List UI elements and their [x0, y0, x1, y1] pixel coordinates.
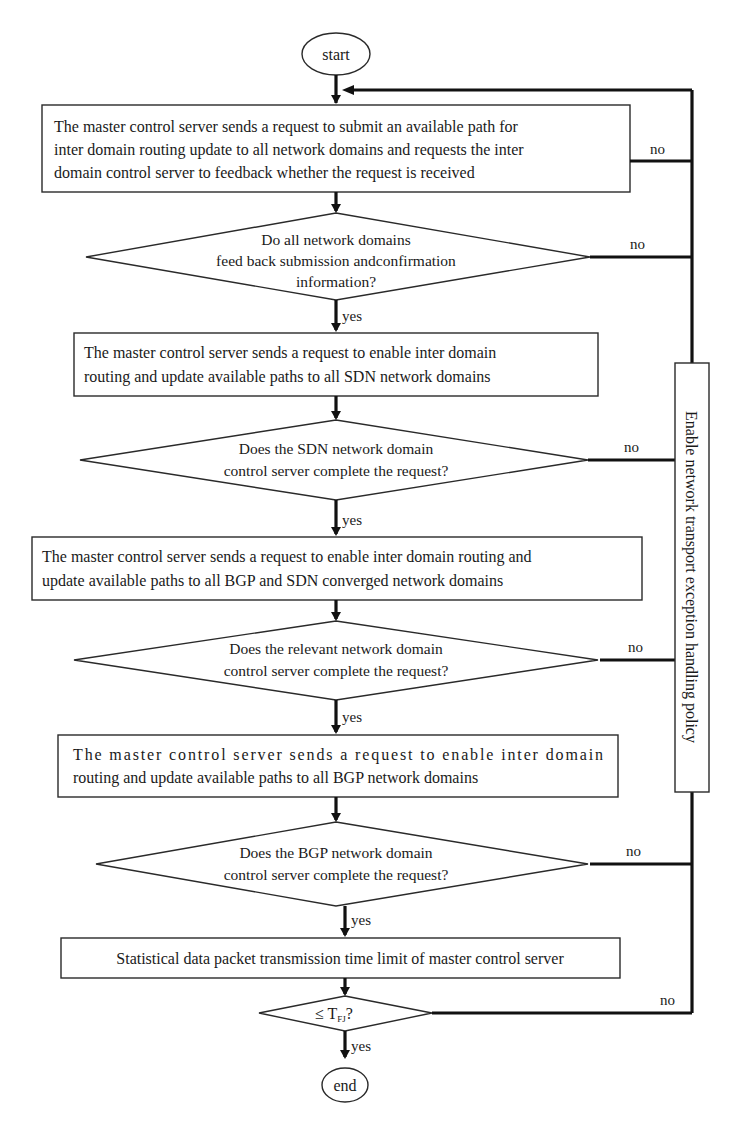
decision-5-time-limit: ≤ TFJ? — [259, 996, 432, 1031]
decision-1: Do all network domains feed back submiss… — [86, 213, 590, 300]
step-4-line-2: routing and update available paths to al… — [73, 769, 478, 787]
process-step-2: The master control server sends a reques… — [74, 333, 598, 396]
decision-4-no-label: no — [626, 843, 641, 859]
decision-3-no-label: no — [628, 639, 643, 655]
arrow-down-icon — [331, 323, 341, 332]
end-node: end — [322, 1068, 368, 1102]
process-step-3: The master control server sends a reques… — [32, 537, 642, 600]
decision-1-line-1: Do all network domains — [261, 231, 410, 248]
decision-2-yes-label: yes — [342, 512, 362, 528]
arrow-down-icon — [331, 725, 341, 734]
step-1-line-1: The master control server sends a reques… — [54, 118, 519, 136]
arrow-down-icon — [331, 813, 341, 822]
decision-4-yes-label: yes — [351, 912, 371, 928]
arrow-left-icon — [342, 85, 354, 95]
end-label: end — [333, 1077, 356, 1094]
arrow-down-icon — [331, 204, 341, 213]
process-step-1: The master control server sends a reques… — [42, 105, 630, 192]
decision-1-line-3: information? — [296, 273, 376, 290]
step-2-line-2: routing and update available paths to al… — [84, 368, 491, 386]
decision-5-no-label: no — [660, 992, 675, 1008]
arrow-down-icon — [340, 1050, 350, 1059]
decision-2-no-label: no — [624, 439, 639, 455]
decision-3-line-2: control server complete the request? — [224, 662, 449, 679]
arrow-down-icon — [331, 411, 341, 420]
arrow-down-icon — [340, 928, 350, 937]
decision-4-line-2: control server complete the request? — [224, 866, 449, 883]
arrow-down-icon — [331, 527, 341, 536]
step-3-line-1: The master control server sends a reques… — [42, 548, 532, 566]
start-node: start — [302, 33, 370, 75]
decision-3-yes-label: yes — [342, 709, 362, 725]
decision-4-line-1: Does the BGP network domain — [239, 844, 432, 861]
decision-1-no-label: no — [630, 236, 645, 252]
decision-3-line-1: Does the relevant network domain — [229, 640, 443, 657]
step-1-no-label: no — [650, 141, 665, 157]
flowchart-canvas: start The master control server sends a … — [0, 0, 732, 1122]
step-1-line-3: domain control server to feedback whethe… — [54, 164, 475, 182]
arrow-down-icon — [331, 95, 341, 104]
step-3-line-2: update available paths to all BGP and SD… — [42, 572, 503, 590]
decision-2-line-1: Does the SDN network domain — [239, 440, 434, 457]
step-1-line-2: inter domain routing update to all netwo… — [54, 141, 524, 159]
step-2-line-1: The master control server sends a reques… — [84, 344, 496, 362]
decision-2: Does the SDN network domain control serv… — [80, 420, 588, 500]
decision-2-line-2: control server complete the request? — [224, 462, 449, 479]
decision-5-yes-label: yes — [351, 1038, 371, 1054]
decision-1-yes-label: yes — [342, 308, 362, 324]
step-4-line-1: The master control server sends a reques… — [73, 746, 603, 764]
exception-policy-box: Enable network transport exception handl… — [675, 363, 709, 792]
step-5-line-1: Statistical data packet transmission tim… — [116, 950, 564, 968]
process-step-4: The master control server sends a reques… — [58, 735, 618, 797]
decision-5-condition: ≤ TFJ? — [315, 1005, 353, 1024]
arrow-down-icon — [340, 987, 350, 996]
start-label: start — [322, 46, 350, 63]
decision-4: Does the BGP network domain control serv… — [96, 822, 588, 906]
exception-policy-label: Enable network transport exception handl… — [682, 411, 700, 743]
decision-3: Does the relevant network domain control… — [74, 621, 598, 700]
process-step-5: Statistical data packet transmission tim… — [61, 938, 620, 978]
decision-1-line-2: feed back submission andconfirmation — [216, 252, 456, 269]
arrow-down-icon — [331, 612, 341, 621]
